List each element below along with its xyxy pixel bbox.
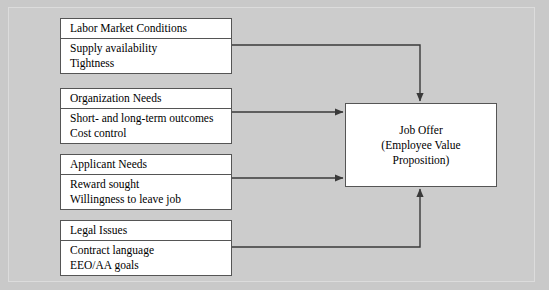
target-box-line: Proposition) xyxy=(393,153,450,168)
source-box-line: Cost control xyxy=(70,126,231,141)
source-box-line: Tightness xyxy=(70,56,231,71)
connector-legal-issues-to-job-offer xyxy=(232,189,420,247)
source-box-line: EEO/AA goals xyxy=(70,258,231,273)
source-box-line: Willingness to leave job xyxy=(70,192,231,207)
target-box-job-offer: Job Offer (Employee Value Proposition) xyxy=(345,103,497,187)
source-box-header: Labor Market Conditions xyxy=(61,19,231,39)
source-box-line: Contract language xyxy=(70,243,231,258)
source-box-legal-issues: Legal Issues Contract language EEO/AA go… xyxy=(60,220,232,276)
source-box-organization-needs: Organization Needs Short- and long-term … xyxy=(60,88,232,144)
source-box-body: Contract language EEO/AA goals xyxy=(61,241,231,275)
source-box-header: Organization Needs xyxy=(61,89,231,109)
source-box-header: Legal Issues xyxy=(61,221,231,241)
connector-labor-market-to-job-offer xyxy=(232,45,420,101)
source-box-applicant-needs: Applicant Needs Reward sought Willingnes… xyxy=(60,154,232,210)
target-box-line: (Employee Value xyxy=(381,138,460,153)
source-box-body: Short- and long-term outcomes Cost contr… xyxy=(61,109,231,143)
diagram-canvas: Labor Market Conditions Supply availabil… xyxy=(0,0,549,290)
source-box-line: Reward sought xyxy=(70,177,231,192)
source-box-labor-market-conditions: Labor Market Conditions Supply availabil… xyxy=(60,18,232,74)
source-box-header: Applicant Needs xyxy=(61,155,231,175)
source-box-body: Reward sought Willingness to leave job xyxy=(61,175,231,209)
source-box-line: Supply availability xyxy=(70,41,231,56)
target-box-line: Job Offer xyxy=(399,123,443,138)
source-box-body: Supply availability Tightness xyxy=(61,39,231,73)
source-box-line: Short- and long-term outcomes xyxy=(70,111,231,126)
